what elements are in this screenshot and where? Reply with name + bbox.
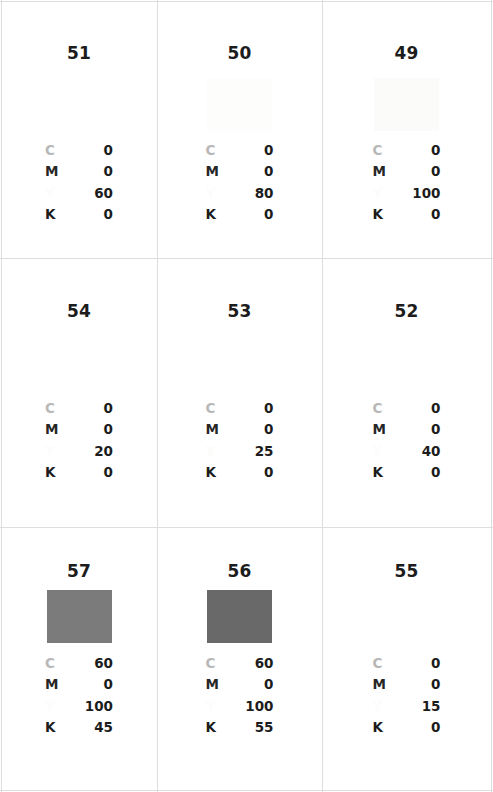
swatch-sheet: 51C0M0Y60K050C0M0Y80K049C0M0Y100K054C0M0…: [0, 0, 493, 792]
cmyk-channel-label-y: Y: [41, 185, 71, 202]
cmyk-channel-value-c: 0: [399, 655, 445, 672]
cmyk-channel-label-c: C: [369, 655, 399, 672]
cmyk-channel-label-c: C: [369, 400, 399, 417]
cmyk-channel-label-k: K: [202, 719, 232, 736]
color-swatch[interactable]: [207, 78, 272, 131]
cmyk-channel-value-m: 0: [232, 421, 278, 438]
cmyk-values: C0M0Y15K0: [369, 655, 445, 736]
swatch-index-label: 53: [227, 303, 251, 320]
color-swatch[interactable]: [207, 590, 272, 643]
cmyk-channel-value-m: 0: [232, 676, 278, 693]
cmyk-values: C0M0Y40K0: [369, 400, 445, 481]
cmyk-channel-value-y: 60: [71, 185, 117, 202]
cmyk-channel-label-c: C: [41, 655, 71, 672]
swatch-cell[interactable]: 53C0M0Y25K0: [157, 258, 322, 527]
cmyk-channel-value-m: 0: [71, 676, 117, 693]
cmyk-channel-label-y: Y: [369, 443, 399, 460]
cmyk-values: C60M0Y100K55: [202, 655, 278, 736]
cmyk-channel-value-k: 0: [71, 464, 117, 481]
color-swatch[interactable]: [207, 345, 272, 398]
cmyk-channel-label-m: M: [202, 163, 232, 180]
cmyk-channel-label-y: Y: [41, 698, 71, 715]
swatch-index-label: 54: [67, 303, 91, 320]
color-swatch[interactable]: [47, 590, 112, 643]
cmyk-channel-label-k: K: [369, 206, 399, 223]
cmyk-channel-label-k: K: [41, 719, 71, 736]
cmyk-channel-value-y: 100: [399, 185, 445, 202]
cmyk-channel-label-y: Y: [369, 185, 399, 202]
cmyk-channel-label-c: C: [202, 655, 232, 672]
color-swatch[interactable]: [47, 88, 112, 141]
cmyk-channel-value-m: 0: [399, 421, 445, 438]
cmyk-channel-label-m: M: [202, 676, 232, 693]
cmyk-channel-label-m: M: [369, 421, 399, 438]
cmyk-channel-value-y: 100: [232, 698, 278, 715]
cmyk-channel-value-k: 0: [71, 206, 117, 223]
cmyk-channel-label-m: M: [41, 163, 71, 180]
swatch-cell[interactable]: 54C0M0Y20K0: [1, 258, 157, 527]
cmyk-values: C0M0Y60K0: [41, 142, 117, 223]
cmyk-channel-value-k: 0: [399, 464, 445, 481]
cmyk-channel-label-k: K: [41, 206, 71, 223]
swatch-index-label: 56: [227, 563, 251, 580]
cmyk-channel-label-m: M: [41, 676, 71, 693]
cmyk-channel-label-c: C: [41, 142, 71, 159]
cmyk-channel-label-k: K: [369, 464, 399, 481]
swatch-index-label: 49: [394, 45, 418, 62]
cmyk-channel-label-m: M: [369, 163, 399, 180]
swatch-cell[interactable]: 50C0M0Y80K0: [157, 1, 322, 258]
cmyk-channel-value-m: 0: [399, 676, 445, 693]
cmyk-channel-value-c: 0: [232, 142, 278, 159]
swatch-index-label: 52: [394, 303, 418, 320]
cmyk-channel-value-k: 0: [399, 206, 445, 223]
swatch-cell[interactable]: 57C60M0Y100K45: [1, 527, 157, 790]
swatch-cell[interactable]: 51C0M0Y60K0: [1, 1, 157, 258]
cmyk-channel-value-k: 0: [232, 464, 278, 481]
cmyk-channel-value-c: 0: [399, 400, 445, 417]
cmyk-channel-label-y: Y: [41, 443, 71, 460]
swatch-cell[interactable]: 52C0M0Y40K0: [322, 258, 491, 527]
cmyk-channel-value-c: 0: [232, 400, 278, 417]
color-swatch[interactable]: [374, 345, 439, 398]
cmyk-values: C0M0Y80K0: [202, 142, 278, 223]
swatch-index-label: 51: [67, 45, 91, 62]
cmyk-channel-value-y: 20: [71, 443, 117, 460]
cmyk-channel-value-c: 0: [71, 142, 117, 159]
cmyk-values: C0M0Y100K0: [369, 142, 445, 223]
cmyk-channel-label-y: Y: [202, 185, 232, 202]
cmyk-channel-label-k: K: [202, 464, 232, 481]
cmyk-channel-value-c: 60: [232, 655, 278, 672]
grid-line-vertical-right: [491, 0, 492, 792]
color-swatch[interactable]: [374, 590, 439, 643]
cmyk-channel-value-k: 45: [71, 719, 117, 736]
cmyk-channel-value-c: 0: [399, 142, 445, 159]
cmyk-channel-value-k: 0: [232, 206, 278, 223]
swatch-index-label: 55: [394, 563, 418, 580]
grid-line-horizontal-bottom: [0, 790, 493, 791]
swatch-index-label: 57: [67, 563, 91, 580]
cmyk-channel-label-y: Y: [369, 698, 399, 715]
cmyk-channel-label-m: M: [202, 421, 232, 438]
cmyk-channel-label-c: C: [202, 142, 232, 159]
swatch-index-label: 50: [227, 45, 251, 62]
cmyk-channel-label-m: M: [41, 421, 71, 438]
cmyk-channel-value-y: 100: [71, 698, 117, 715]
cmyk-values: C0M0Y25K0: [202, 400, 278, 481]
cmyk-channel-label-k: K: [41, 464, 71, 481]
cmyk-channel-value-m: 0: [71, 163, 117, 180]
swatch-cell[interactable]: 55C0M0Y15K0: [322, 527, 491, 790]
cmyk-channel-value-c: 0: [71, 400, 117, 417]
cmyk-channel-value-y: 40: [399, 443, 445, 460]
swatch-cell[interactable]: 49C0M0Y100K0: [322, 1, 491, 258]
cmyk-channel-value-k: 0: [399, 719, 445, 736]
cmyk-channel-value-y: 15: [399, 698, 445, 715]
cmyk-channel-value-m: 0: [232, 163, 278, 180]
cmyk-channel-label-c: C: [41, 400, 71, 417]
swatch-cell[interactable]: 56C60M0Y100K55: [157, 527, 322, 790]
cmyk-channel-value-c: 60: [71, 655, 117, 672]
cmyk-channel-value-k: 55: [232, 719, 278, 736]
cmyk-channel-value-m: 0: [71, 421, 117, 438]
color-swatch[interactable]: [374, 78, 439, 131]
color-swatch[interactable]: [47, 345, 112, 398]
cmyk-channel-label-c: C: [202, 400, 232, 417]
